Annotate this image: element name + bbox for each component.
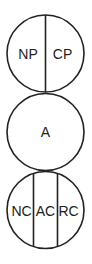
label-nc: NC — [11, 203, 31, 219]
label-np: NP — [18, 46, 37, 62]
label-cp: CP — [53, 46, 72, 62]
label-rc: RC — [58, 203, 78, 219]
top-circle-group: NP CP — [7, 15, 84, 92]
stacked-circles-diagram: NP CP A NC AC RC — [0, 0, 92, 264]
label-ac: AC — [36, 203, 55, 219]
label-a: A — [41, 124, 51, 140]
bottom-circle-group: NC AC RC — [7, 172, 84, 249]
middle-circle-group: A — [7, 94, 84, 171]
